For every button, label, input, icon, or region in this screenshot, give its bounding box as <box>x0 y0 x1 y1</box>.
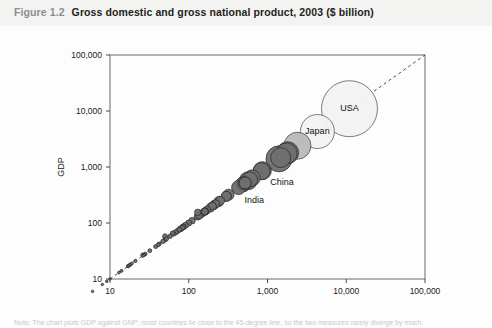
data-bubble <box>201 208 208 215</box>
figure-footnote: Note: The chart plots GDP against GNP; m… <box>14 318 484 327</box>
data-bubble <box>134 259 137 262</box>
data-bubble <box>105 280 108 283</box>
figure-container: Figure 1.2Gross domestic and gross natio… <box>0 0 492 328</box>
data-bubble <box>170 231 174 235</box>
scatter-chart-svg: 10101001001,0001,00010,00010,000100,0001… <box>0 26 492 306</box>
data-bubble <box>239 177 251 189</box>
x-tick-label: 1,000 <box>257 286 279 296</box>
bubble-label-usa: USA <box>340 103 359 113</box>
data-bubble <box>127 265 130 268</box>
y-tick-label: 100 <box>88 218 102 228</box>
data-bubble <box>156 243 160 247</box>
data-bubble <box>118 271 121 274</box>
data-bubble <box>101 283 103 285</box>
y-tick-label: 1,000 <box>81 162 103 172</box>
y-tick-label: 10,000 <box>76 106 102 116</box>
y-tick-label: 10 <box>93 274 103 284</box>
data-bubble <box>148 249 152 253</box>
data-bubble <box>195 209 201 215</box>
data-bubbles <box>91 81 377 293</box>
x-tick-label: 100 <box>182 286 196 296</box>
y-tick-label: 100,000 <box>71 50 102 60</box>
figure-number: Figure 1.2 <box>14 6 65 18</box>
figure-caption: Gross domestic and gross national produc… <box>72 6 374 18</box>
chart-plot-area: 10101001001,0001,00010,00010,000100,0001… <box>0 26 492 306</box>
figure-title-bar: Figure 1.2Gross domestic and gross natio… <box>0 0 492 27</box>
bubble-label-india: India <box>245 195 265 205</box>
bubble-label-japan: Japan <box>305 126 330 136</box>
x-tick-label: 10 <box>105 286 115 296</box>
data-bubble <box>164 237 168 241</box>
data-bubble <box>271 148 291 168</box>
x-tick-label: 100,000 <box>410 286 441 296</box>
data-bubble <box>177 227 182 232</box>
data-bubble <box>91 290 93 292</box>
data-bubble <box>109 278 112 281</box>
bubble-label-china: China <box>270 177 294 187</box>
x-tick-label: 10,000 <box>333 286 359 296</box>
data-bubble <box>141 254 144 257</box>
page-title: Figure 1.2Gross domestic and gross natio… <box>14 6 374 18</box>
y-axis-title: GDP <box>56 157 66 177</box>
data-bubble <box>130 262 133 265</box>
